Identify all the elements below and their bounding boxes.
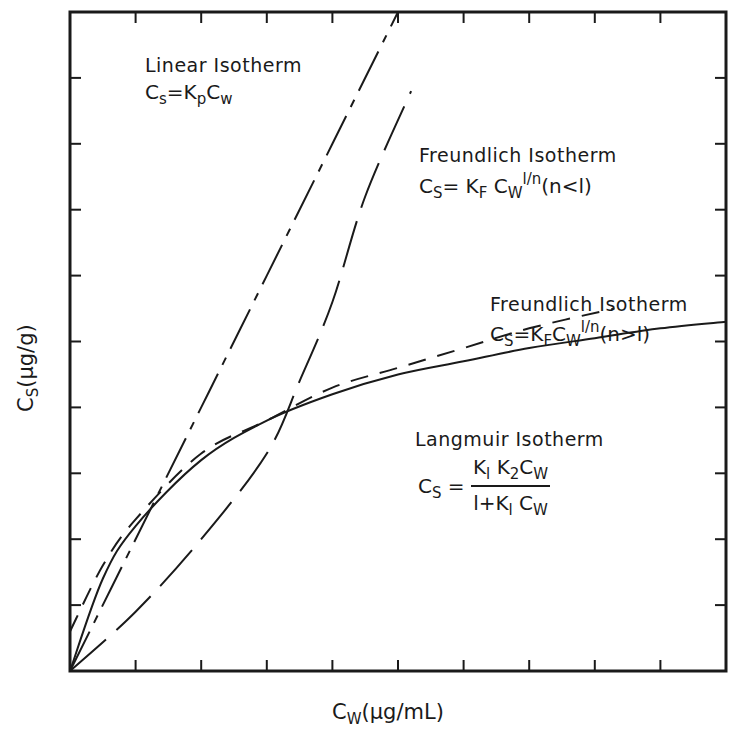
langmuir-title: Langmuir Isotherm <box>415 428 604 450</box>
linear-isotherm-equation: Cs=KpCw <box>145 80 232 108</box>
curve-linear-isotherm <box>70 12 398 671</box>
eq-k-sub: p <box>197 90 207 108</box>
curve-freundlich-isotherm-n-1 <box>70 91 411 671</box>
den-one-plus-k: l+K <box>473 491 508 515</box>
langmuir-equation: CS = Kl K2CW l+Kl CW <box>418 455 550 519</box>
num-k2: K <box>490 455 509 479</box>
eq-lhs-sub: S <box>504 332 514 350</box>
eq-mid: =K <box>514 322 544 346</box>
y-title-c: C <box>14 397 38 412</box>
x-axis-title: CW(µg/mL) <box>332 700 444 728</box>
y-axis-title: CS(µg/g) <box>14 324 42 412</box>
freundlich-lt-title: Freundlich Isotherm <box>419 144 617 166</box>
eq-condition: (n>l) <box>600 322 651 346</box>
langmuir-fraction: Kl K2CW l+Kl CW <box>471 455 550 519</box>
linear-isotherm-title: Linear Isotherm <box>145 54 302 76</box>
eq-condition: (n<l) <box>541 174 592 198</box>
eq-lhs: C <box>419 174 433 198</box>
eq-rhs: C <box>487 174 507 198</box>
freundlich-gt-title: Freundlich Isotherm <box>490 293 688 315</box>
eq-exponent: l/n <box>523 170 542 188</box>
num-c: C <box>519 455 533 479</box>
y-title-sub: S <box>24 388 42 398</box>
eq-rhs-sub: W <box>508 184 523 202</box>
eq-lhs-sub: S <box>433 184 443 202</box>
fraction-denominator: l+Kl CW <box>471 487 550 519</box>
eq-lhs: C <box>145 80 159 104</box>
freundlich-lt-equation: CS= KF CWl/n(n<l) <box>419 170 592 202</box>
eq-lhs-sub: S <box>432 484 442 502</box>
x-title-c: C <box>332 700 347 724</box>
eq-mid: =K <box>167 80 197 104</box>
curve-langmuir-isotherm <box>70 322 726 671</box>
fraction-numerator: Kl K2CW <box>471 455 550 487</box>
x-title-units: (µg/mL) <box>362 700 444 724</box>
isotherm-chart <box>0 0 733 738</box>
den-c-sub: W <box>533 501 548 519</box>
eq-mid: = K <box>443 174 479 198</box>
eq-lhs: C <box>490 322 504 346</box>
eq-k-sub: F <box>543 332 552 350</box>
den-c: C <box>513 491 533 515</box>
x-title-sub: W <box>347 710 362 728</box>
eq-rhs: C <box>552 322 566 346</box>
eq-lhs-sub: s <box>159 90 167 108</box>
eq-exponent: l/n <box>581 318 600 336</box>
num-k2-sub: 2 <box>510 465 520 483</box>
eq-rhs-sub: w <box>220 90 232 108</box>
y-title-units: (µg/g) <box>14 324 38 387</box>
eq-rhs-sub: W <box>566 332 581 350</box>
freundlich-gt-equation: CS=KFCWl/n(n>l) <box>490 318 650 350</box>
eq-lhs: C <box>418 474 432 498</box>
num-k1: K <box>473 455 486 479</box>
eq-rhs: C <box>206 80 220 104</box>
num-c-sub: W <box>533 465 548 483</box>
eq-equals: = <box>442 474 465 498</box>
